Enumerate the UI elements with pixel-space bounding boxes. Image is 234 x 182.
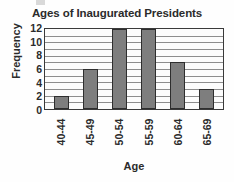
x-axis-tick-labels: 40-4445-4950-5455-5960-6465-69 [44,112,224,158]
bar [112,29,127,109]
x-axis-tick: 50-54 [113,119,125,146]
scan-artifact [36,0,45,5]
y-axis-tick: 6 [24,64,42,75]
bar-slot [192,29,221,109]
bar-chart: Ages of Inaugurated Presidents Frequency… [0,0,234,182]
x-axis-tick: 45-49 [84,119,96,146]
x-tick-slot: 55-59 [134,112,163,158]
x-tick-slot: 60-64 [163,112,192,158]
x-tick-slot: 50-54 [105,112,134,158]
y-axis-tick-labels: 121086420 [22,28,42,110]
plot-area [44,28,224,110]
bar [170,62,185,109]
x-axis-tick: 65-69 [201,119,213,146]
bar [54,96,69,109]
bar [83,69,98,109]
x-tick-slot: 45-49 [75,112,104,158]
y-axis-label: Frequency [10,11,22,91]
y-axis-tick: 8 [24,50,42,61]
bar-slot [134,29,163,109]
x-tick-slot: 65-69 [193,112,222,158]
y-axis-tick: 4 [24,77,42,88]
x-axis-label: Age [44,160,224,172]
x-axis-tick: 40-44 [55,119,67,146]
bar [141,29,156,109]
bar-slot [47,29,76,109]
bar-slot [76,29,105,109]
y-axis-tick: 10 [24,36,42,47]
x-axis-tick: 55-59 [143,119,155,146]
bar-series [45,29,223,109]
x-axis-tick: 60-64 [172,119,184,146]
y-axis-tick: 12 [24,23,42,34]
y-axis-tick: 0 [24,105,42,116]
x-tick-slot: 40-44 [46,112,75,158]
y-axis-tick: 2 [24,91,42,102]
bar [199,89,214,109]
bar-slot [163,29,192,109]
chart-title: Ages of Inaugurated Presidents [0,7,234,19]
bar-slot [105,29,134,109]
